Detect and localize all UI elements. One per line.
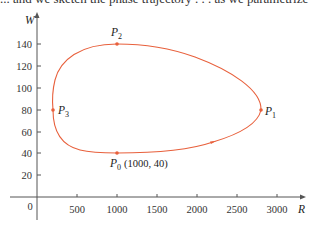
phase-plot: 500 1000 1500 2000 2500 3000 0 20 40 60 … [0, 0, 314, 230]
y-axis-arrow-icon [35, 12, 40, 18]
p0-label: P0(1000, 40) [109, 157, 168, 172]
x-tick-label: 1000 [107, 204, 128, 215]
p3-label: P3 [57, 104, 69, 119]
x-axis-label: R [297, 203, 305, 215]
point-p3 [51, 108, 55, 112]
x-tick-label: 3000 [267, 204, 288, 215]
x-tick-label: 500 [69, 204, 85, 215]
y-ticks [37, 44, 41, 175]
x-tick-label: 1500 [147, 204, 168, 215]
origin-label: 0 [27, 201, 32, 212]
y-tick-label: 100 [16, 83, 32, 94]
phase-trajectory [52, 44, 261, 153]
y-tick-label: 60 [22, 127, 33, 138]
p1-label: P1 [264, 105, 276, 120]
y-tick-label: 20 [22, 170, 33, 181]
p2-label: P2 [110, 26, 122, 41]
y-axis-label: W [25, 14, 36, 26]
point-p1 [259, 108, 263, 112]
y-tick-label: 120 [16, 61, 32, 72]
point-p2 [115, 42, 119, 46]
direction-arrow-icon [210, 141, 216, 144]
y-tick-label: 40 [22, 148, 33, 159]
x-tick-label: 2000 [187, 204, 208, 215]
y-tick-label: 140 [16, 39, 32, 50]
x-tick-label: 2500 [227, 204, 248, 215]
y-tick-label: 80 [22, 105, 33, 116]
point-p0 [115, 151, 119, 155]
x-axis-arrow-icon [300, 195, 306, 200]
